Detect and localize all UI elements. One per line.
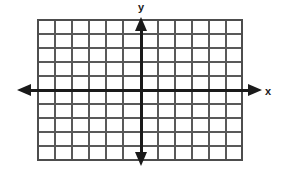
x-axis-label: x [265,86,271,97]
x-axis-right-arrowhead-icon [248,84,262,96]
coordinate-grid-svg [0,0,282,175]
x-axis-left-arrowhead-icon [17,84,31,96]
y-axis-label: y [138,2,144,13]
coordinate-plane-figure: x y [0,0,282,175]
